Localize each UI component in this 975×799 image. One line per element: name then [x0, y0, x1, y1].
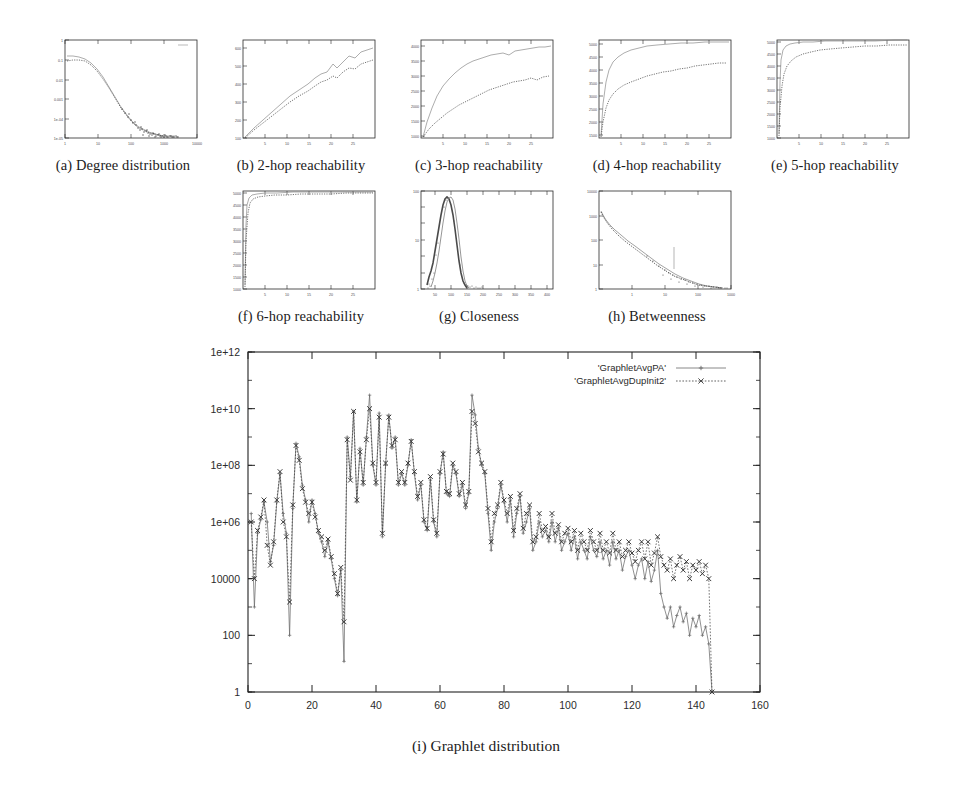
svg-text:1500: 1500 — [767, 125, 775, 129]
svg-text:60: 60 — [434, 699, 446, 711]
svg-text:5: 5 — [442, 142, 444, 146]
svg-text:20: 20 — [863, 142, 867, 146]
svg-text:100: 100 — [695, 293, 701, 297]
subplot-i-caption: (i) Graphlet distribution — [186, 737, 786, 755]
svg-text:0.001: 0.001 — [54, 98, 63, 102]
subplot-g-caption: (g) Closeness — [439, 308, 519, 325]
svg-text:1: 1 — [61, 39, 63, 43]
svg-text:10: 10 — [663, 293, 667, 297]
svg-text:10: 10 — [819, 142, 823, 146]
svg-text:10000: 10000 — [211, 573, 240, 585]
subplot-d-4hop-reachability: 50004500 40003500 30002500 20001500 510 … — [568, 34, 746, 174]
svg-text:20: 20 — [329, 142, 333, 146]
svg-text:1000: 1000 — [160, 142, 168, 146]
svg-text:10: 10 — [285, 293, 289, 297]
svg-text:300: 300 — [512, 293, 518, 297]
svg-text:3000: 3000 — [589, 95, 597, 99]
svg-text:4500: 4500 — [767, 53, 775, 57]
svg-text:500: 500 — [235, 65, 241, 69]
svg-text:10: 10 — [96, 142, 100, 146]
svg-text:600: 600 — [235, 47, 241, 51]
svg-text:3500: 3500 — [411, 60, 419, 64]
svg-text:'GraphletAvgPA': 'GraphletAvgPA' — [598, 362, 666, 373]
svg-text:1: 1 — [64, 142, 66, 146]
svg-text:10000: 10000 — [192, 142, 202, 146]
svg-text:15: 15 — [485, 142, 489, 146]
svg-text:4000: 4000 — [233, 216, 241, 220]
svg-text:140: 140 — [687, 699, 705, 711]
svg-text:100: 100 — [559, 699, 577, 711]
svg-text:350: 350 — [528, 293, 534, 297]
svg-text:10000: 10000 — [587, 190, 597, 194]
subplot-d-caption: (d) 4-hop reachability — [593, 157, 722, 174]
svg-text:3500: 3500 — [767, 77, 775, 81]
svg-text:80: 80 — [498, 699, 510, 711]
svg-text:25: 25 — [885, 142, 889, 146]
subplot-f-caption: (f) 6-hop reachability — [238, 308, 364, 325]
svg-text:3500: 3500 — [589, 82, 597, 86]
svg-text:1000: 1000 — [589, 215, 597, 219]
svg-text:200: 200 — [235, 119, 241, 123]
svg-text:25: 25 — [707, 142, 711, 146]
svg-text:4500: 4500 — [233, 204, 241, 208]
subplot-c-caption: (c) 3-hop reachability — [415, 157, 543, 174]
subplot-e-plot-area: 50004500 40003500 30002500 20001500 1000… — [755, 34, 915, 152]
svg-text:20: 20 — [329, 293, 333, 297]
svg-text:1000: 1000 — [233, 288, 241, 292]
svg-text:1500: 1500 — [411, 120, 419, 124]
svg-text:100: 100 — [235, 137, 241, 141]
subplot-c-plot-area: 40003500 30002500 20001500 1000 510 1520… — [399, 34, 559, 152]
svg-text:200: 200 — [480, 293, 486, 297]
svg-text:100: 100 — [448, 293, 454, 297]
svg-text:2500: 2500 — [411, 90, 419, 94]
svg-text:1e-04: 1e-04 — [54, 118, 63, 122]
svg-text:1e+06: 1e+06 — [211, 516, 241, 528]
svg-text:1e-05: 1e-05 — [54, 137, 63, 141]
svg-text:1e+12: 1e+12 — [211, 346, 241, 358]
svg-text:15: 15 — [663, 142, 667, 146]
svg-text:10: 10 — [415, 239, 419, 243]
svg-text:1: 1 — [417, 288, 419, 292]
svg-text:4500: 4500 — [589, 56, 597, 60]
svg-text:3000: 3000 — [767, 89, 775, 93]
svg-text:4000: 4000 — [411, 45, 419, 49]
svg-text:'GraphletAvgDupInit2': 'GraphletAvgDupInit2' — [574, 375, 666, 386]
subplot-row-top: 10.1 0.010.001 1e-041e-05 110 1001000 10… — [34, 34, 924, 174]
svg-text:1: 1 — [631, 293, 633, 297]
subplot-i-graphlet-distribution: 1100100001e+061e+081e+101e+12 0204060801… — [186, 340, 786, 755]
svg-text:1: 1 — [595, 288, 597, 292]
svg-text:3000: 3000 — [233, 240, 241, 244]
svg-text:15: 15 — [307, 293, 311, 297]
svg-text:150: 150 — [464, 293, 470, 297]
svg-text:40: 40 — [370, 699, 382, 711]
svg-text:120: 120 — [623, 699, 641, 711]
svg-text:0: 0 — [245, 699, 251, 711]
svg-text:100: 100 — [222, 629, 240, 641]
svg-text:10: 10 — [641, 142, 645, 146]
svg-text:160: 160 — [751, 699, 769, 711]
svg-text:20: 20 — [685, 142, 689, 146]
svg-text:20: 20 — [306, 699, 318, 711]
svg-text:1e+08: 1e+08 — [211, 459, 241, 471]
svg-text:15: 15 — [841, 142, 845, 146]
svg-text:2500: 2500 — [589, 108, 597, 112]
svg-text:10: 10 — [463, 142, 467, 146]
svg-text:2000: 2000 — [233, 264, 241, 268]
svg-text:5000: 5000 — [589, 43, 597, 47]
svg-text:100: 100 — [591, 239, 597, 243]
subplot-b-plot-area: 600500 400300 200100 510 1520 25 — [221, 34, 381, 152]
subplot-h-caption: (h) Betweenness — [608, 308, 706, 325]
svg-text:10: 10 — [593, 264, 597, 268]
svg-text:4000: 4000 — [767, 65, 775, 69]
svg-text:2500: 2500 — [767, 101, 775, 105]
svg-text:0.1: 0.1 — [58, 59, 63, 63]
svg-text:1000: 1000 — [727, 293, 735, 297]
svg-text:10: 10 — [285, 142, 289, 146]
svg-text:20: 20 — [507, 142, 511, 146]
svg-text:100: 100 — [413, 190, 419, 194]
svg-text:50: 50 — [433, 293, 437, 297]
subplot-g-plot-area: 100101 50100 150200 250300 350400 — [399, 185, 559, 303]
subplot-h-betweenness: 100001000 10010 1 110 1001000 — [568, 185, 746, 325]
subplot-d-plot-area: 50004500 40003500 30002500 20001500 510 … — [577, 34, 737, 152]
svg-text:1500: 1500 — [589, 134, 597, 138]
